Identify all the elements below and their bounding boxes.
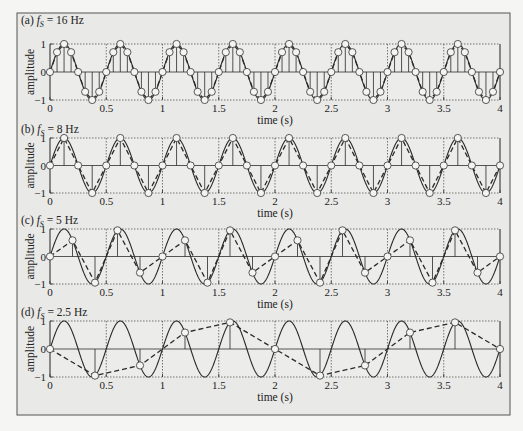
sample-marker [482, 96, 489, 103]
sample-marker [406, 237, 413, 244]
sample-marker [384, 162, 391, 169]
x-axis-label: time (s) [257, 114, 293, 127]
x-tick-label: 1.5 [212, 195, 226, 207]
sample-marker [406, 329, 413, 336]
sample-marker [384, 68, 391, 75]
y-tick-label: 1 [41, 38, 47, 50]
sample-marker [398, 40, 405, 47]
sample-marker [454, 40, 461, 47]
sample-marker [426, 96, 433, 103]
sample-marker [187, 162, 194, 169]
x-tick-label: 3.5 [437, 379, 451, 391]
x-tick-label: 3 [385, 286, 391, 298]
sample-marker [316, 279, 323, 286]
x-tick-label: 4 [497, 195, 503, 207]
x-tick-label: 2 [272, 195, 278, 207]
sample-marker [181, 329, 188, 336]
sample-marker [454, 134, 461, 141]
x-tick-label: 1.5 [212, 286, 226, 298]
sample-marker [339, 227, 346, 234]
x-tick-label: 3.5 [437, 286, 451, 298]
x-tick-label: 1.5 [212, 102, 226, 114]
sample-marker [426, 189, 433, 196]
sample-marker [96, 88, 103, 95]
sample-marker [405, 49, 412, 56]
sample-marker [60, 40, 67, 47]
x-tick-label: 0.5 [99, 102, 113, 114]
sample-marker [103, 162, 110, 169]
sample-marker [145, 96, 152, 103]
sample-marker [226, 227, 233, 234]
x-tick-label: 2 [272, 102, 278, 114]
sample-marker [412, 68, 419, 75]
sample-marker [349, 49, 356, 56]
sample-marker [489, 88, 496, 95]
y-axis-label: amplitude [24, 234, 37, 280]
y-tick-label: −1 [34, 371, 46, 383]
sample-marker [307, 88, 314, 95]
x-tick-label: 4 [497, 102, 503, 114]
sample-marker [335, 49, 342, 56]
sample-marker [461, 49, 468, 56]
sample-marker [226, 319, 233, 326]
sample-marker [82, 88, 89, 95]
x-tick-label: 3.5 [437, 195, 451, 207]
sample-marker [173, 40, 180, 47]
sample-marker [398, 134, 405, 141]
sample-marker [278, 49, 285, 56]
sample-marker [264, 88, 271, 95]
sample-marker [475, 88, 482, 95]
sample-marker [271, 68, 278, 75]
sample-marker [440, 68, 447, 75]
x-tick-label: 3 [385, 379, 391, 391]
sample-marker [370, 96, 377, 103]
sample-marker [138, 88, 145, 95]
x-axis-label: time (s) [257, 298, 293, 311]
sample-marker [181, 237, 188, 244]
sample-marker [46, 345, 53, 352]
sample-marker [314, 189, 321, 196]
x-tick-label: 1 [160, 195, 166, 207]
x-tick-label: 2 [272, 286, 278, 298]
sample-marker [468, 68, 475, 75]
x-tick-label: 2.5 [324, 286, 338, 298]
sample-marker [257, 96, 264, 103]
sample-marker [53, 49, 60, 56]
y-tick-label: 0 [41, 343, 47, 355]
sample-marker [300, 68, 307, 75]
y-tick-label: −1 [34, 278, 46, 290]
sample-marker [250, 88, 257, 95]
sample-marker [180, 49, 187, 56]
sample-marker [117, 134, 124, 141]
sample-marker [152, 88, 159, 95]
sample-marker [316, 372, 323, 379]
sample-marker [342, 134, 349, 141]
x-tick-label: 0.5 [99, 286, 113, 298]
x-tick-label: 3 [385, 102, 391, 114]
sample-marker [110, 49, 117, 56]
sample-marker [75, 162, 82, 169]
sample-marker [222, 49, 229, 56]
sample-marker [131, 162, 138, 169]
x-axis-label: time (s) [257, 391, 293, 404]
x-tick-label: 2.5 [324, 195, 338, 207]
sample-marker [391, 49, 398, 56]
sample-marker [363, 88, 370, 95]
sample-marker [89, 189, 96, 196]
y-axis-label: amplitude [24, 49, 37, 95]
y-tick-label: −1 [34, 94, 46, 106]
sample-marker [342, 40, 349, 47]
x-tick-label: 3 [385, 195, 391, 207]
x-tick-label: 0 [47, 379, 53, 391]
sample-marker [75, 68, 82, 75]
sample-marker [236, 49, 243, 56]
x-tick-label: 0 [47, 195, 53, 207]
x-tick-label: 3.5 [437, 102, 451, 114]
sample-marker [328, 162, 335, 169]
sample-marker [243, 162, 250, 169]
x-tick-label: 0.5 [99, 379, 113, 391]
sample-marker [361, 269, 368, 276]
sample-marker [370, 189, 377, 196]
sample-marker [271, 345, 278, 352]
x-tick-label: 1 [160, 379, 166, 391]
